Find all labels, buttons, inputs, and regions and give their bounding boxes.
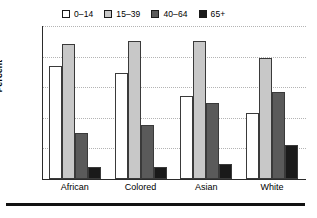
legend-item-0-14: 0–14 — [62, 10, 93, 19]
legend-label-40-64: 40–64 — [163, 10, 187, 19]
bar-group-colored: Colored — [108, 26, 174, 179]
bars — [108, 26, 174, 179]
bar-african-0-14 — [49, 66, 62, 179]
bar-african-15-39 — [62, 44, 75, 179]
x-tick-label-african: African — [42, 182, 108, 192]
bar-chart-figure: 0–14 15–39 40–64 65+ Percent 50403020100… — [0, 0, 317, 218]
legend-label-0-14: 0–14 — [74, 10, 93, 19]
footer-rule — [6, 203, 305, 206]
bar-groups: AfricanColoredAsianWhite — [42, 26, 305, 179]
bar-african-40-64 — [75, 133, 88, 179]
bar-colored-40-64 — [141, 125, 154, 179]
legend-swatch-15-39 — [104, 10, 112, 18]
legend-label-65-plus: 65+ — [211, 10, 226, 19]
legend-swatch-0-14 — [62, 10, 70, 18]
bars — [42, 26, 108, 179]
bar-colored-0-14 — [115, 73, 128, 179]
bar-group-african: African — [42, 26, 108, 179]
bars — [239, 26, 305, 179]
legend-swatch-65-plus — [199, 10, 207, 18]
bar-white-0-14 — [246, 113, 259, 179]
bar-asian-0-14 — [180, 96, 193, 179]
bar-colored-15-39 — [128, 41, 141, 179]
legend-item-65-plus: 65+ — [199, 10, 226, 19]
bar-colored-65+ — [154, 167, 167, 179]
bars — [174, 26, 240, 179]
bar-white-15-39 — [259, 58, 272, 179]
bar-asian-65+ — [219, 164, 232, 179]
y-axis-title: Percent — [0, 60, 4, 93]
x-axis-line — [42, 179, 306, 180]
bar-white-65+ — [285, 145, 298, 179]
bar-african-65+ — [88, 167, 101, 179]
bar-group-white: White — [239, 26, 305, 179]
x-tick-label-white: White — [239, 182, 305, 192]
bar-asian-40-64 — [206, 103, 219, 180]
bar-white-40-64 — [272, 92, 285, 179]
legend-swatch-40-64 — [151, 10, 159, 18]
chart-legend: 0–14 15–39 40–64 65+ — [62, 7, 242, 21]
bar-group-asian: Asian — [174, 26, 240, 179]
legend-label-15-39: 15–39 — [116, 10, 140, 19]
legend-item-40-64: 40–64 — [151, 10, 187, 19]
bar-asian-15-39 — [193, 41, 206, 179]
legend-item-15-39: 15–39 — [104, 10, 140, 19]
x-tick-label-colored: Colored — [108, 182, 174, 192]
x-tick-label-asian: Asian — [174, 182, 240, 192]
